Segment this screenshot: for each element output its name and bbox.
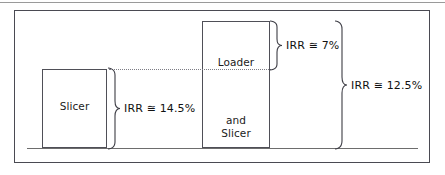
diagram-canvas: Slicer Loader and Slicer IRR ≅ 14.5% IRR…	[0, 0, 445, 175]
brace-irr-combined	[334, 20, 348, 150]
irr-loader-label: IRR ≅ 7%	[286, 39, 339, 52]
brace-irr-loader	[269, 20, 283, 71]
irr-combined-label: IRR ≅ 12.5%	[351, 79, 422, 92]
top-rule	[0, 2, 445, 3]
baseline	[27, 148, 418, 149]
bar-loader-and-slicer: Loader and Slicer	[202, 21, 270, 148]
bar-slicer-label: Slicer	[43, 100, 106, 113]
brace-irr-slicer	[107, 67, 121, 150]
bar-and-slicer-label: and Slicer	[203, 114, 269, 139]
leader-dotted-line	[109, 69, 273, 70]
irr-slicer-label: IRR ≅ 14.5%	[124, 102, 195, 115]
figure-frame: Slicer Loader and Slicer IRR ≅ 14.5% IRR…	[14, 10, 430, 163]
bar-loader-label: Loader	[203, 56, 269, 69]
bar-slicer: Slicer	[42, 69, 107, 148]
